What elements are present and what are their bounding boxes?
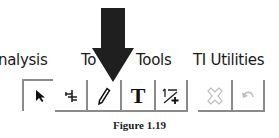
- delete-button[interactable]: [199, 80, 231, 112]
- tab-ti-utilities[interactable]: TI Utilities: [193, 51, 264, 69]
- pencil-tool-button[interactable]: [88, 80, 120, 112]
- undo-icon: [240, 89, 256, 103]
- undo-button[interactable]: [233, 80, 263, 112]
- delete-x-icon: [205, 86, 225, 106]
- tab-analysis[interactable]: nalysis: [0, 51, 47, 69]
- pencil-icon: [97, 87, 111, 105]
- text-icon: T: [131, 83, 146, 109]
- pointer-tool-button[interactable]: [24, 80, 55, 112]
- down-arrow-icon: [92, 8, 134, 83]
- arrow-pointer-icon: [34, 89, 46, 103]
- lines-tool-button[interactable]: [156, 80, 186, 112]
- point-on-object-icon: [63, 88, 79, 104]
- divider: [263, 80, 265, 112]
- figure-caption: Figure 1.19: [0, 119, 279, 131]
- divider: [186, 80, 188, 112]
- tab-tools[interactable]: Tools: [136, 51, 171, 69]
- perpendicular-lines-icon: [162, 87, 180, 105]
- text-tool-button[interactable]: T: [122, 80, 154, 112]
- point-on-tool-button[interactable]: [56, 80, 86, 112]
